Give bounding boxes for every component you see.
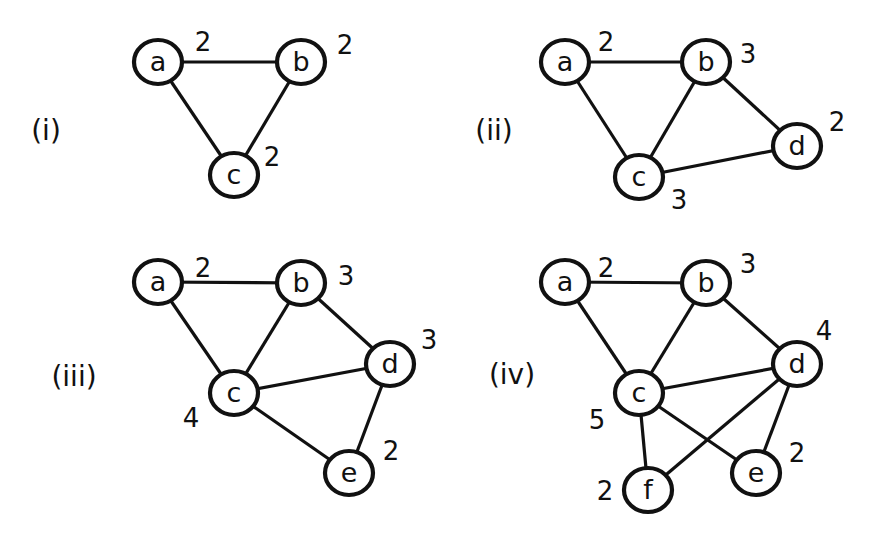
graph-panel-iv: (iv)a2b3c5d4e2f2 [489, 249, 832, 512]
node-c: c3 [615, 155, 687, 215]
node-label: b [697, 267, 714, 298]
degree-label: 2 [597, 476, 614, 506]
node-label: d [788, 130, 805, 161]
panel-label: (i) [31, 114, 61, 147]
node-b: b3 [682, 249, 756, 305]
node-c: c4 [183, 371, 258, 433]
node-a: a2 [541, 27, 614, 84]
degree-label: 2 [598, 253, 615, 283]
graph-panel-ii: (ii)a2b3c3d2 [475, 27, 845, 215]
degree-label: 2 [829, 107, 846, 137]
node-label: c [632, 377, 647, 408]
node-d: d4 [773, 316, 832, 386]
node-b: b3 [682, 39, 756, 84]
node-label: b [292, 267, 309, 298]
node-label: a [150, 266, 167, 297]
graph-panel-iii: (iii)a2b3c4d3e2 [51, 253, 437, 495]
degree-label: 2 [195, 253, 212, 283]
graph-degree-figure: (i)a2b2c2(ii)a2b3c3d2(iii)a2b3c4d3e2(iv)… [0, 0, 885, 536]
node-label: a [557, 266, 574, 297]
node-e: e2 [325, 436, 399, 495]
graph-panel-i: (i)a2b2c2 [31, 27, 353, 197]
node-label: e [341, 457, 358, 488]
node-c: c5 [589, 371, 663, 435]
degree-label: 4 [816, 316, 833, 346]
node-e: e2 [732, 438, 805, 495]
degree-label: 3 [338, 261, 355, 291]
node-a: a2 [134, 253, 211, 304]
degree-label: 2 [383, 436, 400, 466]
panels: (i)a2b2c2(ii)a2b3c3d2(iii)a2b3c4d3e2(iv)… [31, 27, 845, 512]
panel-label: (ii) [475, 114, 512, 147]
node-label: d [788, 348, 805, 379]
node-label: b [292, 46, 309, 77]
degree-label: 2 [789, 438, 806, 468]
degree-label: 3 [740, 249, 757, 279]
degree-label: 2 [337, 30, 354, 60]
node-a: a2 [541, 253, 614, 304]
node-label: a [557, 46, 574, 77]
degree-label: 2 [195, 27, 212, 57]
node-label: a [150, 46, 167, 77]
node-label: d [381, 348, 398, 379]
degree-label: 2 [264, 142, 281, 172]
node-f: f2 [597, 468, 672, 512]
degree-label: 3 [671, 185, 688, 215]
panel-label: (iv) [489, 358, 535, 391]
node-label: b [697, 46, 714, 77]
node-label: f [643, 474, 654, 505]
degree-label: 5 [589, 405, 606, 435]
node-b: b3 [277, 261, 354, 305]
degree-label: 3 [421, 325, 438, 355]
degree-label: 2 [598, 27, 615, 57]
node-c: c2 [210, 142, 280, 197]
degree-label: 4 [183, 403, 200, 433]
node-label: c [632, 161, 647, 192]
node-d: d3 [366, 325, 437, 386]
node-label: e [748, 457, 765, 488]
degree-label: 3 [740, 39, 757, 69]
node-b: b2 [277, 30, 353, 84]
node-d: d2 [773, 107, 845, 168]
node-label: c [227, 377, 242, 408]
node-label: c [227, 159, 242, 190]
node-a: a2 [134, 27, 211, 84]
panel-label: (iii) [51, 360, 96, 393]
